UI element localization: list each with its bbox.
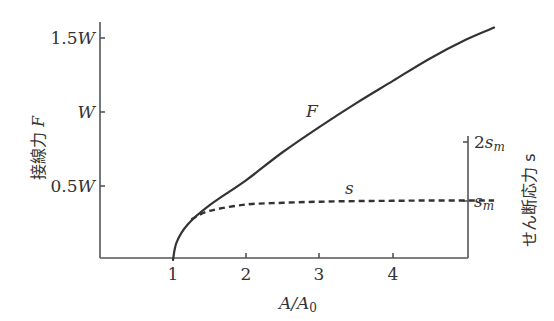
svg-text:接線力 F: 接線力 F [29, 115, 48, 180]
y-right-label-2sm: 2sm [474, 132, 505, 154]
y-label-0.5W: 0.5W [50, 176, 96, 196]
chart: 1.5W W 0.5W 1 2 3 4 A/A0 2sm sm F s 接線力 … [0, 0, 554, 321]
y-label-1.5W: 1.5W [50, 28, 96, 48]
y-label-W: W [78, 102, 97, 122]
x-label-3: 3 [314, 264, 325, 284]
svg-text:せん断応力 s: せん断応力 s [520, 153, 539, 246]
curve-F [173, 28, 494, 260]
y-right-label-sm: sm [474, 191, 494, 213]
x-label-1: 1 [168, 264, 179, 284]
curve-label-s: s [345, 178, 354, 198]
x-label-2: 2 [241, 264, 252, 284]
left-axis-title: 接線力 F [29, 115, 48, 180]
axes [100, 22, 468, 258]
x-axis-title: A/A0 [277, 293, 317, 315]
curve-s [191, 201, 494, 220]
x-label-4: 4 [388, 264, 399, 284]
right-axis-title: せん断応力 s [520, 153, 539, 246]
curve-label-F: F [305, 101, 319, 121]
